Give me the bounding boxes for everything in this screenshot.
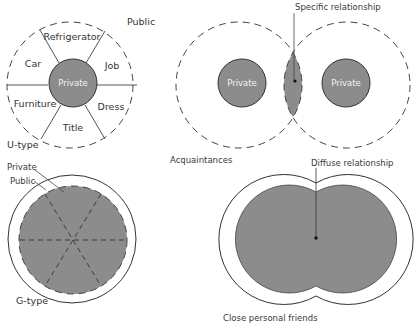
u-type-sector-job: Job [104, 60, 120, 71]
acquaintances-label: Acquaintances [170, 155, 233, 165]
acquaintances-diagram: Private Private Specific relationship Ac… [170, 2, 410, 165]
personality-types-diagram: Private Refrigerator Job Dress Title Fur… [0, 0, 416, 334]
u-type-public-label: Public [127, 16, 155, 27]
u-type-sector-furniture: Furniture [14, 98, 57, 109]
u-type-label: U-type [7, 139, 39, 150]
specific-relationship-label: Specific relationship [295, 2, 381, 12]
acquaintance-right-private-label: Private [331, 78, 361, 88]
g-type-private-label: Private [7, 162, 37, 172]
g-type-public-label: Public [10, 176, 35, 186]
g-type-label: G-type [16, 295, 48, 306]
close-friends-diagram: Diffuse relationship Close personal frie… [219, 158, 413, 323]
g-type-public-leader [34, 181, 46, 190]
diffuse-relationship-label: Diffuse relationship [311, 158, 393, 168]
u-type-sector-car: Car [25, 58, 41, 69]
diffuse-relationship-dot [314, 236, 317, 239]
acquaintance-left-private-label: Private [227, 78, 257, 88]
u-type-sector-refrigerator: Refrigerator [44, 31, 101, 42]
u-type-diagram: Private Refrigerator Job Dress Title Fur… [7, 16, 155, 150]
close-friends-label: Close personal friends [223, 313, 318, 323]
u-type-sector-title: Title [62, 122, 84, 133]
g-type-diagram: Private Public G-type [7, 162, 136, 306]
u-type-private-label: Private [58, 78, 88, 88]
specific-relationship-dot [293, 79, 296, 82]
g-type-private-leader [35, 170, 64, 192]
u-type-spoke [41, 105, 61, 139]
u-type-sector-dress: Dress [98, 101, 125, 112]
